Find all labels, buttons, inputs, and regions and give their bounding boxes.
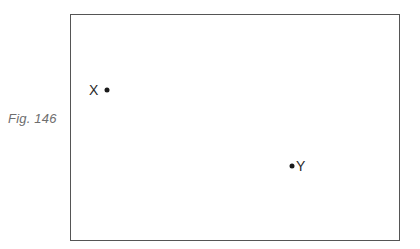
point-y-label: Y xyxy=(296,159,305,173)
point-x-dot-icon xyxy=(105,88,110,93)
point-y-dot-icon xyxy=(290,164,295,169)
figure-caption: Fig. 146 xyxy=(8,111,57,126)
point-x-label: X xyxy=(89,83,98,97)
diagram-frame xyxy=(70,14,400,241)
